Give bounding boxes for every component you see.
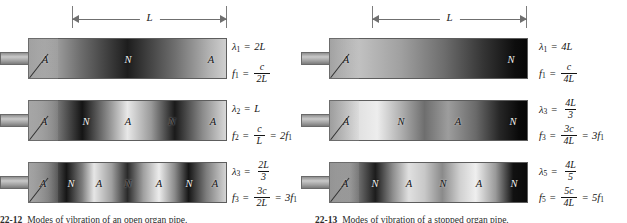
lambda-subscript: 1 bbox=[237, 45, 241, 54]
open-mode-3-equations: λ3 = 2L 3 f3 = 3c 2L = 3f1 bbox=[232, 162, 312, 205]
frequency-fraction: c 4L bbox=[561, 62, 578, 84]
f-subscript: 3 bbox=[542, 133, 546, 142]
pipe-body-open-1 bbox=[28, 38, 227, 79]
figure-caption-open: 22-12Modes of vibration of an open organ… bbox=[0, 215, 187, 223]
fraction-numerator: 2L bbox=[255, 160, 272, 171]
equals-sign: = bbox=[244, 41, 250, 52]
pipe-foot-open-1 bbox=[0, 52, 30, 65]
fraction-numerator: c bbox=[564, 62, 574, 73]
fraction-numerator: 5c bbox=[561, 186, 576, 197]
open-mode-1-equations: λ1 = 2L f1 = c 2L bbox=[232, 38, 312, 81]
frequency-fraction: c L bbox=[254, 124, 266, 146]
pipe-body-open-2 bbox=[28, 100, 227, 141]
f-subscript: 5 bbox=[542, 195, 546, 204]
harmonic-relation: 2f bbox=[280, 130, 288, 141]
stopped-mode-1-equations: λ1 = 4L f1 = c 4L bbox=[539, 38, 627, 81]
wavelength-equation-open-2: λ2 = L bbox=[232, 103, 260, 114]
harmonic-relation: 3f bbox=[592, 130, 600, 141]
lambda-subscript: 3 bbox=[237, 169, 241, 178]
harmonic-relation-subscript: 1 bbox=[600, 133, 604, 142]
open-mode-2-row: A N A N A λ2 = L f2 = c L = bbox=[0, 100, 313, 143]
frequency-fraction: 5c 4L bbox=[561, 186, 578, 208]
pipe-body-stopped-5 bbox=[329, 162, 528, 203]
wavelength-fraction: 4L 5 bbox=[562, 160, 579, 182]
wavelength-fraction: 4L 3 bbox=[562, 98, 579, 120]
fraction-denominator: 4L bbox=[561, 73, 578, 85]
wavelength-value: 4L bbox=[561, 41, 572, 52]
frequency-equation-stopped-5: f5 = 5c 4L = 5f1 bbox=[539, 186, 604, 208]
harmonic-relation-subscript: 1 bbox=[293, 195, 297, 204]
frequency-equation-open-3: f3 = 3c 2L = 3f1 bbox=[232, 186, 297, 208]
f-subscript: 3 bbox=[235, 195, 239, 204]
equals-sign: = bbox=[243, 192, 249, 203]
fraction-numerator: 3c bbox=[561, 124, 576, 135]
standing-wave-gradient-open-1 bbox=[29, 39, 226, 78]
lambda-subscript: 3 bbox=[544, 107, 548, 116]
open-mode-2-equations: λ2 = L f2 = c L = 2f1 bbox=[232, 100, 312, 143]
stopped-mode-5-equations: λ5 = 4L 5 f5 = 5c 4L = 5f1 bbox=[539, 162, 627, 205]
pipe-foot-open-2 bbox=[0, 114, 30, 127]
frequency-equation-open-1: f1 = c 2L bbox=[232, 62, 271, 84]
fraction-numerator: 4L bbox=[562, 160, 579, 171]
standing-wave-gradient-open-3 bbox=[29, 163, 226, 202]
stopped-mode-3-row: A N A N λ3 = 4L 3 f3 = 3c bbox=[313, 100, 627, 143]
equals-sign: = bbox=[550, 68, 556, 79]
wavelength-equation-stopped-5: λ5 = 4L 5 bbox=[539, 160, 580, 182]
frequency-fraction: c 2L bbox=[254, 62, 271, 84]
standing-wave-gradient-stopped-5 bbox=[330, 163, 527, 202]
wavelength-equation-stopped-3: λ3 = 4L 3 bbox=[539, 98, 580, 120]
frequency-fraction: 3c 4L bbox=[561, 124, 578, 146]
equals-sign: = bbox=[551, 104, 557, 115]
equals-sign: = bbox=[582, 130, 588, 141]
fraction-denominator: 4L bbox=[561, 197, 578, 209]
open-organ-pipe-panel: L A N A λ1 = 2L f1 bbox=[0, 0, 313, 223]
caption-text: Modes of vibration of a stopped organ pi… bbox=[342, 215, 509, 223]
wavelength-equation-open-1: λ1 = 2L bbox=[232, 41, 265, 52]
frequency-equation-stopped-3: f3 = 3c 4L = 3f1 bbox=[539, 124, 604, 146]
pipe-foot-open-3 bbox=[0, 176, 30, 189]
equals-sign: = bbox=[275, 192, 281, 203]
f-subscript: 1 bbox=[542, 71, 546, 80]
dimension-label: L bbox=[439, 10, 459, 25]
equals-sign: = bbox=[551, 41, 557, 52]
open-mode-3-row: A N A N A N A λ3 = 2L 3 f3 = bbox=[0, 162, 313, 205]
fraction-numerator: c bbox=[254, 124, 264, 135]
harmonic-relation-subscript: 1 bbox=[600, 195, 604, 204]
fraction-numerator: 3c bbox=[254, 186, 269, 197]
wavelength-value: 2L bbox=[254, 41, 265, 52]
stopped-mode-3-equations: λ3 = 4L 3 f3 = 3c 4L = 3f1 bbox=[539, 100, 627, 143]
caption-number: 22-12 bbox=[0, 215, 22, 223]
pipe-foot-stopped-5 bbox=[301, 176, 331, 189]
equals-sign: = bbox=[270, 130, 276, 141]
dimension-arrow-right-icon bbox=[520, 15, 527, 23]
equals-sign: = bbox=[550, 130, 556, 141]
fraction-denominator: 5 bbox=[565, 171, 576, 183]
wavelength-value: L bbox=[254, 103, 260, 114]
stopped-mode-1-row: A N λ1 = 4L f1 = c 4L bbox=[313, 38, 627, 81]
equals-sign: = bbox=[243, 130, 249, 141]
pipe-foot-stopped-1 bbox=[301, 52, 331, 65]
dimension-arrow-right-icon bbox=[220, 15, 227, 23]
equals-sign: = bbox=[244, 166, 250, 177]
lambda-subscript: 2 bbox=[237, 107, 241, 116]
equals-sign: = bbox=[550, 192, 556, 203]
dimension-arrow-left-icon bbox=[372, 15, 379, 23]
harmonic-relation-subscript: 1 bbox=[288, 133, 292, 142]
length-dimension-open: L bbox=[72, 6, 227, 32]
equals-sign: = bbox=[244, 103, 250, 114]
pipe-body-open-3 bbox=[28, 162, 227, 203]
caption-text: Modes of vibration of an open organ pipe… bbox=[27, 215, 187, 223]
lambda-subscript: 1 bbox=[544, 45, 548, 54]
fraction-denominator: 4L bbox=[561, 135, 578, 147]
frequency-equation-stopped-1: f1 = c 4L bbox=[539, 62, 578, 84]
standing-wave-gradient-stopped-1 bbox=[330, 39, 527, 78]
equals-sign: = bbox=[243, 68, 249, 79]
stopped-mode-5-row: A N A N A N λ5 = 4L 5 f5 = bbox=[313, 162, 627, 205]
dimension-arrow-left-icon bbox=[72, 15, 79, 23]
fraction-denominator: 3 bbox=[565, 109, 576, 121]
standing-wave-gradient-stopped-3 bbox=[330, 101, 527, 140]
fraction-denominator: 2L bbox=[254, 197, 271, 209]
lambda-subscript: 5 bbox=[544, 169, 548, 178]
standing-wave-gradient-open-2 bbox=[29, 101, 226, 140]
fraction-numerator: c bbox=[257, 62, 267, 73]
